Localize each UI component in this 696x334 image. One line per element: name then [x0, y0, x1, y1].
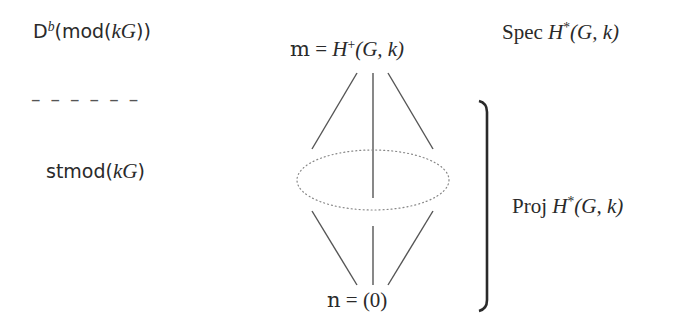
right-bracket: [479, 101, 487, 311]
top-left-line: [312, 73, 357, 149]
bottom-right-line: [388, 211, 433, 285]
spectrum-diagram: [0, 0, 696, 334]
top-right-line: [388, 73, 433, 149]
bottom-left-line: [312, 211, 357, 285]
